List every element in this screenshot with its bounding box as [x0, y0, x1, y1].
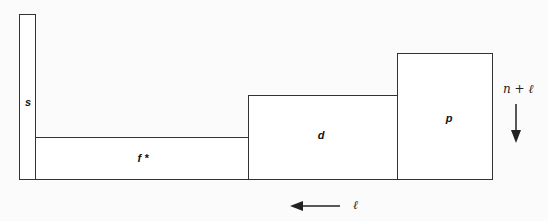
down-arrow-icon	[511, 104, 521, 143]
axis-arrows	[0, 0, 548, 221]
left-arrow-icon	[290, 201, 340, 211]
